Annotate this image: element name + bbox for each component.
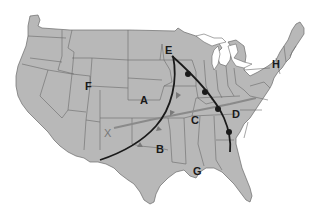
weather-map: A B C D E F G H X [0,0,326,217]
label-e: E [165,45,172,56]
us-landmass [16,15,304,204]
label-c: C [191,115,199,126]
us-map-svg [0,0,326,217]
label-a: A [140,95,148,106]
label-f: F [85,81,92,92]
label-d: D [232,109,240,120]
label-b: B [156,144,164,155]
label-h: H [272,59,280,70]
label-g: G [193,166,202,177]
label-x: X [104,128,111,139]
